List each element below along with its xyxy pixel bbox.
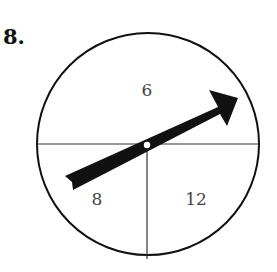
section-label-8: 8 xyxy=(92,189,103,209)
spinner-diagram: 6 8 12 xyxy=(0,0,277,272)
pivot-dot xyxy=(144,142,150,148)
section-label-12: 12 xyxy=(185,189,207,209)
section-label-6: 6 xyxy=(142,80,153,100)
spinner-arrow-icon[interactable] xyxy=(65,90,238,190)
